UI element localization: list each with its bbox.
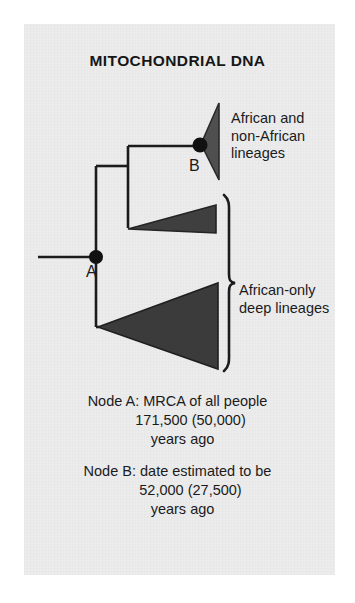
clade-triangle-african-only-upper [128, 205, 216, 233]
caption-node-a-line2: 171,500 (50,000) [0, 411, 355, 430]
clade-triangle-african-only-lower [98, 283, 218, 369]
figure-root: MITOCHONDRIAL DNA A B African and non-Af… [0, 0, 355, 603]
caption-node-a: Node A: MRCA of all people 171,500 (50,0… [0, 392, 355, 449]
node-a-marker-icon [89, 250, 103, 264]
caption-node-b-line1: Node B: date estimated to be [84, 463, 272, 479]
caption-node-b-line2: 52,000 (27,500) [0, 481, 355, 500]
caption-node-b: Node B: date estimated to be 52,000 (27,… [0, 462, 355, 519]
caption-node-b-line3: years ago [0, 500, 355, 519]
node-a-label: A [86, 263, 97, 280]
clade-label-african-and-non-african: African and non-African lineages [231, 110, 305, 163]
african-only-bracket-icon [224, 195, 235, 371]
caption-node-a-line1: Node A: MRCA of all people [88, 393, 268, 409]
node-b-marker-icon [193, 138, 208, 153]
node-b-label: B [189, 157, 200, 174]
clade-label-african-only: African-only deep lineages [239, 282, 329, 317]
caption-node-a-line3: years ago [0, 430, 355, 449]
